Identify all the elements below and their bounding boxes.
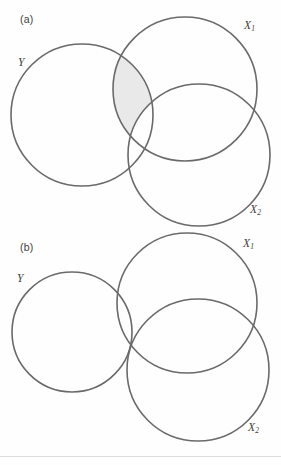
circle-x2-panel-b	[127, 299, 269, 441]
panel-a-venn-svg	[0, 0, 281, 232]
set-label-x1-panel-a-sub: 1	[251, 24, 255, 33]
panel-b-venn-svg	[0, 232, 281, 465]
venn-diagram-figure: (a) Y X1 X2	[0, 0, 281, 465]
set-label-x1-panel-b: X1	[243, 237, 254, 249]
panel-a: (a) Y X1 X2	[0, 0, 281, 232]
set-label-x2-panel-b: X2	[248, 421, 259, 433]
set-label-x2-panel-b-text: X	[248, 421, 255, 433]
circle-x2-panel-a	[128, 84, 270, 226]
set-label-x2-panel-a: X2	[250, 203, 261, 215]
bottom-divider	[0, 456, 281, 457]
panel-b: (b) Y X1 X2	[0, 232, 281, 465]
set-label-x1-panel-b-text: X	[243, 237, 250, 249]
set-label-y-panel-a-text: Y	[18, 56, 24, 68]
circle-y-panel-b	[12, 272, 132, 392]
set-label-y-panel-b: Y	[17, 272, 23, 284]
set-label-y-panel-a: Y	[18, 56, 24, 68]
set-label-x2-panel-a-sub: 2	[257, 208, 261, 217]
shaded-region-b	[0, 232, 281, 465]
set-label-x2-panel-a-text: X	[250, 203, 257, 215]
set-label-x1-panel-b-sub: 1	[250, 242, 254, 251]
circle-x1-panel-b	[117, 233, 257, 373]
panel-b-caption: (b)	[20, 241, 33, 253]
panel-a-caption: (a)	[20, 13, 33, 25]
set-label-x2-panel-b-sub: 2	[255, 426, 259, 435]
set-label-x1-panel-a-text: X	[244, 19, 251, 31]
set-label-y-panel-b-text: Y	[17, 272, 23, 284]
set-label-x1-panel-a: X1	[244, 19, 255, 31]
